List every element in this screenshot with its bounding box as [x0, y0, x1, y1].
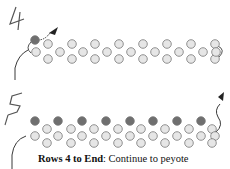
bead	[161, 139, 170, 148]
dark-bead	[31, 36, 40, 45]
bead	[43, 125, 52, 134]
bead	[126, 132, 135, 141]
bead	[31, 132, 40, 141]
bead	[185, 125, 194, 134]
dark-bead	[54, 117, 63, 126]
bead	[139, 55, 148, 64]
dark-bead	[102, 117, 111, 126]
bead	[67, 139, 76, 148]
bead	[79, 48, 88, 57]
bead	[127, 48, 136, 57]
arrow-icon	[49, 27, 58, 35]
bead	[91, 55, 100, 64]
bead	[56, 48, 65, 57]
bead	[212, 48, 221, 57]
bead	[90, 125, 99, 134]
bead	[115, 40, 124, 49]
bead	[102, 132, 111, 141]
caption: Rows 4 to End: Continue to peyote	[38, 153, 189, 164]
bead	[163, 55, 172, 64]
bead	[32, 48, 41, 57]
dark-bead	[78, 117, 87, 126]
dark-bead	[149, 117, 158, 126]
bead	[114, 139, 123, 148]
bead	[90, 139, 99, 148]
bead	[185, 139, 194, 148]
thread	[15, 50, 28, 80]
caption-bold: Rows 4 to End	[38, 153, 103, 164]
bead	[187, 40, 196, 49]
bead	[54, 132, 63, 141]
bead	[151, 48, 160, 57]
bead	[197, 132, 206, 141]
beading-diagram: Rows 4 to End: Continue to peyote	[0, 0, 230, 169]
bead	[114, 125, 123, 134]
bead	[161, 125, 170, 134]
bead	[43, 139, 52, 148]
bead	[68, 55, 77, 64]
dark-bead	[126, 117, 135, 126]
bead	[163, 40, 172, 49]
dark-bead	[197, 117, 206, 126]
bead	[44, 40, 53, 49]
bead	[137, 139, 146, 148]
arrow-icon	[218, 92, 224, 101]
bead	[211, 40, 220, 49]
bead	[173, 132, 182, 141]
bead	[175, 48, 184, 57]
bead	[68, 40, 77, 49]
dark-bead	[31, 117, 40, 126]
bead-pattern-figure	[0, 0, 230, 169]
bead	[208, 139, 217, 148]
bead	[67, 125, 76, 134]
dark-bead	[173, 117, 182, 126]
bead	[103, 48, 112, 57]
bead	[91, 40, 100, 49]
step-number-5	[8, 93, 22, 115]
bead	[44, 55, 53, 64]
bead	[187, 55, 196, 64]
thread	[12, 136, 26, 169]
bead	[78, 132, 87, 141]
bead	[137, 125, 146, 134]
bead	[115, 55, 124, 64]
caption-text: : Continue to peyote	[103, 153, 188, 164]
bead	[149, 132, 158, 141]
step-number-4	[10, 7, 24, 30]
bead	[199, 48, 208, 57]
bead	[139, 40, 148, 49]
